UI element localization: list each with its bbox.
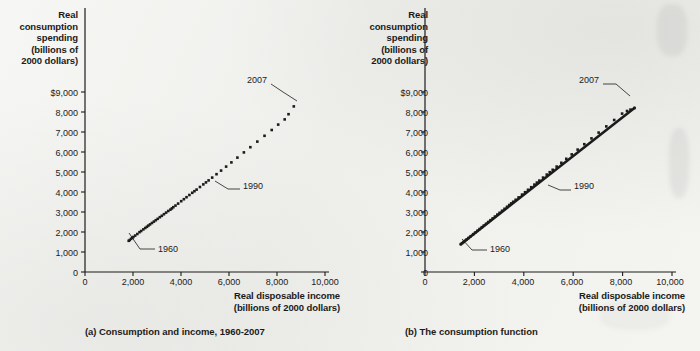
plot-area-a — [0, 0, 350, 351]
panel-a: Real consumption spending (billions of 2… — [0, 0, 350, 351]
panel-b: Real consumption spending (billions of 2… — [350, 0, 700, 351]
plot-area-b — [350, 0, 700, 351]
